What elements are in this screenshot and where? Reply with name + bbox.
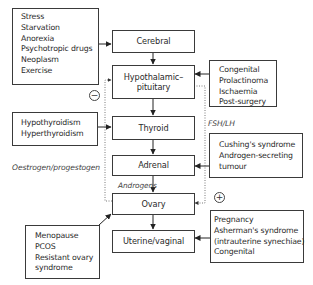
cause-item: Resistant ovary <box>35 253 99 264</box>
uterine-causes-box: Pregnancy Asherman's syndrome (intrauter… <box>210 210 304 263</box>
androgens-label: Androgens <box>118 181 157 190</box>
adrenal-causes-box: Cushing's syndrome Androgen-secreting tu… <box>209 133 303 178</box>
cause-item: Prolactinoma <box>219 76 276 87</box>
node-label: Cerebral <box>136 36 170 47</box>
node-hypothalamic-pituitary: Hypothalamic– pituitary <box>112 65 195 99</box>
node-label: Thyroid <box>138 123 168 134</box>
cause-item: Hypothyroidism <box>21 118 97 129</box>
node-label: Ovary <box>141 199 165 210</box>
cause-item: Exercise <box>21 66 98 77</box>
ovary-causes-box: Menopause PCOS Resistant ovary syndrome <box>25 225 100 279</box>
fsh-lh-label: FSH/LH <box>208 119 235 128</box>
cause-item: Pregnancy <box>214 215 303 226</box>
cause-item: Ischaemia <box>219 87 276 98</box>
cause-item: tumour <box>219 162 302 173</box>
cause-item: Starvation <box>21 23 98 34</box>
cause-item: PCOS <box>35 242 99 253</box>
node-label-line1: Hypothalamic– <box>124 72 183 83</box>
negative-feedback-icon: − <box>89 90 100 101</box>
node-label: Adrenal <box>138 160 169 171</box>
cause-item: Menopause <box>35 231 99 242</box>
positive-feedback-icon: + <box>214 192 225 203</box>
cause-item: Congenital <box>219 65 276 76</box>
cause-item: (intrauterine synechiae) <box>214 237 303 248</box>
cause-item: Psychotropic drugs <box>21 44 98 55</box>
node-cerebral: Cerebral <box>112 30 195 53</box>
node-label: Uterine/vaginal <box>123 236 184 247</box>
thyroid-causes-box: Hypothyroidism Hyperthyroidism <box>12 112 98 146</box>
cause-item: Anorexia <box>21 34 98 45</box>
cause-item: Neoplasm <box>21 55 98 66</box>
cause-item: Post-surgery <box>219 97 276 108</box>
cause-item: Stress <box>21 12 98 23</box>
pituitary-causes-box: Congenital Prolactinoma Ischaemia Post-s… <box>209 60 277 107</box>
node-adrenal: Adrenal <box>112 155 195 176</box>
node-uterine-vaginal: Uterine/vaginal <box>112 230 195 253</box>
node-label-line2: pituitary <box>137 82 171 93</box>
cause-item: Cushing's syndrome <box>219 140 302 151</box>
cause-item: Congenital <box>214 247 303 258</box>
oestrogen-progestogen-label: Oestrogen/progestogen <box>12 163 100 172</box>
cause-item: syndrome <box>35 263 99 274</box>
cause-item: Asherman's syndrome <box>214 226 303 237</box>
node-ovary: Ovary <box>112 193 195 215</box>
cause-item: Hyperthyroidism <box>21 129 97 140</box>
node-thyroid: Thyroid <box>112 116 195 140</box>
cause-item: Androgen-secreting <box>219 151 302 162</box>
cerebral-causes-box: Stress Starvation Anorexia Psychotropic … <box>12 8 99 85</box>
